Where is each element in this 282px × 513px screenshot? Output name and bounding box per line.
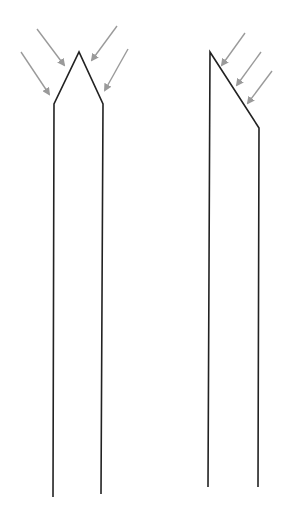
bevelled-tip-shape xyxy=(208,52,259,487)
symmetric-pointed-tip-outline xyxy=(53,52,103,497)
diagram-canvas xyxy=(0,0,282,513)
arrow-icon xyxy=(248,71,272,103)
arrow-icon xyxy=(92,26,117,60)
arrow-icon xyxy=(105,49,128,90)
bevelled-tip-outline xyxy=(208,52,259,487)
force-arrows-right-shape xyxy=(222,33,272,103)
arrow-icon xyxy=(37,29,64,65)
arrow-icon xyxy=(222,33,245,65)
symmetric-pointed-tip-shape xyxy=(53,52,103,497)
arrow-icon xyxy=(237,52,261,85)
arrow-icon xyxy=(21,52,49,94)
